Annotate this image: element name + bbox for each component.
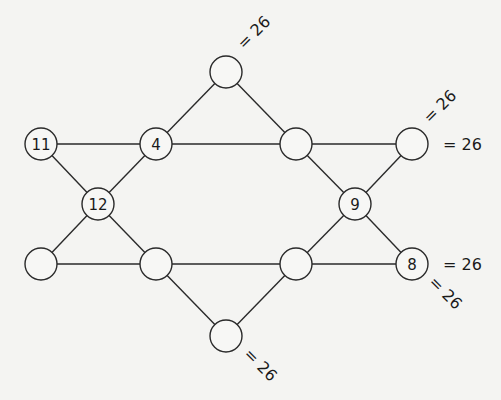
node-value: 9 [350,196,360,214]
sum-label: = 26 [443,255,482,274]
node-circle [280,128,312,160]
node-mid-right: 9 [339,188,371,220]
node-circle [396,128,428,160]
node-r4c2 [140,248,172,280]
sum-label: = 26 [443,135,482,154]
node-r2c2: 4 [140,128,172,160]
node-circle [210,56,242,88]
node-r2c4 [396,128,428,160]
node-circle [25,248,57,280]
magic-star-diagram: 1141298 = 26= 26= 26= 26= 26= 26 [0,0,501,400]
node-value: 8 [407,256,417,274]
sum-label: = 26 [233,12,274,53]
node-value: 12 [88,196,107,214]
node-mid-left: 12 [82,188,114,220]
node-r4c1 [25,248,57,280]
node-r2c1: 11 [25,128,57,160]
nodes-layer: 1141298 [25,56,428,352]
node-circle [210,320,242,352]
node-r4c3 [280,248,312,280]
sum-label: = 26 [419,86,460,127]
diagram-canvas: 1141298 = 26= 26= 26= 26= 26= 26 [0,0,501,400]
sum-label: = 26 [425,272,466,313]
node-circle [280,248,312,280]
node-value: 11 [31,136,50,154]
node-top [210,56,242,88]
sum-label: = 26 [240,344,281,385]
node-r4c4: 8 [396,248,428,280]
node-bottom [210,320,242,352]
node-circle [140,248,172,280]
node-value: 4 [151,136,161,154]
node-r2c3 [280,128,312,160]
